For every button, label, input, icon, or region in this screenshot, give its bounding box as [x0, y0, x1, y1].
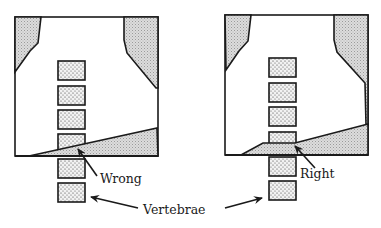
vertebra	[58, 86, 85, 105]
vertebra	[58, 110, 85, 129]
label-right: Right	[300, 166, 335, 181]
vertebrae-arrow-left	[91, 197, 138, 208]
vertebra	[58, 183, 85, 202]
label-vertebrae: Vertebrae	[142, 202, 206, 217]
vertebra	[269, 83, 296, 102]
vertebra	[58, 159, 85, 178]
vertebra	[269, 58, 296, 77]
diagram-canvas: Wrong Right Vertebrae	[0, 0, 381, 228]
vertebra	[58, 61, 85, 80]
panel-wrong: Wrong	[15, 17, 158, 202]
vertebrae-callout: Vertebrae	[91, 197, 262, 217]
vertebra	[269, 107, 296, 126]
vertebra	[269, 157, 296, 176]
vertebra	[269, 181, 296, 200]
vertebrae-arrow-right	[225, 198, 262, 208]
label-wrong: Wrong	[100, 171, 142, 186]
panel-right: Right	[225, 15, 368, 200]
